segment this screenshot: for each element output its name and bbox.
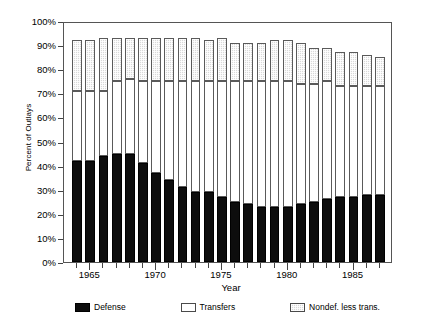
bar-segment-transfers xyxy=(191,81,201,192)
x-tick-mark-minor xyxy=(300,263,301,268)
y-tick-label: 30% xyxy=(18,186,56,196)
x-tick-mark-minor xyxy=(339,263,340,268)
bar xyxy=(335,21,345,262)
bar-segment-nondef-less-trans xyxy=(112,38,122,81)
x-tick-mark-minor xyxy=(168,263,169,268)
x-tick-label: 1965 xyxy=(69,270,109,280)
bar-segment-defense xyxy=(309,202,319,262)
bar-segment-nondef-less-trans xyxy=(164,38,174,81)
bar-segment-nondef-less-trans xyxy=(257,43,267,82)
y-tick-label: 100% xyxy=(18,17,56,27)
legend-swatch-defense-icon xyxy=(75,303,90,312)
x-tick-mark-minor xyxy=(116,263,117,268)
y-tick-mark xyxy=(58,263,63,264)
bar xyxy=(230,21,240,262)
bar-segment-transfers xyxy=(99,91,109,156)
bar-segment-nondef-less-trans xyxy=(362,55,372,86)
bar-segment-nondef-less-trans xyxy=(191,38,201,81)
x-tick-label: 1970 xyxy=(135,270,175,280)
bar xyxy=(85,21,95,262)
x-tick-label: 1975 xyxy=(201,270,241,280)
bar xyxy=(178,21,188,262)
bar-segment-transfers xyxy=(138,81,148,163)
bar-segment-nondef-less-trans xyxy=(72,40,82,91)
bar-segment-defense xyxy=(362,195,372,262)
x-tick-mark-minor xyxy=(234,263,235,268)
bar xyxy=(191,21,201,262)
x-tick-mark-minor xyxy=(102,263,103,268)
bar-segment-transfers xyxy=(217,81,227,197)
bar-segment-defense xyxy=(335,197,345,262)
bar-segment-transfers xyxy=(164,81,174,180)
bar-segment-transfers xyxy=(72,91,82,161)
x-tick-mark-minor xyxy=(247,263,248,268)
bar-segment-nondef-less-trans xyxy=(217,38,227,81)
legend-label: Transfers xyxy=(200,302,236,312)
bar-segment-nondef-less-trans xyxy=(283,40,293,81)
x-tick-mark-minor xyxy=(181,263,182,268)
bar-segment-transfers xyxy=(230,81,240,202)
y-tick-label: 70% xyxy=(18,89,56,99)
y-tick-label: 60% xyxy=(18,113,56,123)
bar-segment-nondef-less-trans xyxy=(270,40,280,81)
bar xyxy=(112,21,122,262)
bar xyxy=(125,21,135,262)
legend-swatch-transfers-icon xyxy=(181,303,196,312)
legend-label: Defense xyxy=(94,302,126,312)
y-tick-label: 80% xyxy=(18,65,56,75)
bar xyxy=(270,21,280,262)
bar xyxy=(243,21,253,262)
bar-segment-nondef-less-trans xyxy=(349,52,359,86)
x-tick-mark-minor xyxy=(313,263,314,268)
bar-segment-nondef-less-trans xyxy=(85,40,95,91)
bar-segment-defense xyxy=(230,202,240,262)
legend-swatch-nondef-icon xyxy=(290,303,305,312)
bar xyxy=(283,21,293,262)
bar-segment-transfers xyxy=(375,86,385,194)
bar xyxy=(72,21,82,262)
bar-segment-transfers xyxy=(335,86,345,197)
bar-segment-defense xyxy=(243,204,253,262)
bar xyxy=(217,21,227,262)
legend-label: Nondef. less trans. xyxy=(309,302,380,312)
bar xyxy=(296,21,306,262)
y-tick-label: 50% xyxy=(18,138,56,148)
bar xyxy=(349,21,359,262)
bar-segment-nondef-less-trans xyxy=(230,43,240,82)
chart-legend: DefenseTransfersNondef. less trans. xyxy=(63,299,392,315)
bar-segment-transfers xyxy=(151,81,161,173)
bar-segment-nondef-less-trans xyxy=(178,38,188,81)
bar xyxy=(375,21,385,262)
bar-segment-nondef-less-trans xyxy=(99,38,109,91)
bar-segment-defense xyxy=(217,197,227,262)
y-tick-label: 90% xyxy=(18,41,56,51)
x-tick-mark-minor xyxy=(366,263,367,268)
bar-segment-defense xyxy=(191,192,201,262)
bar-segment-defense xyxy=(178,187,188,262)
stacked-bar-chart: Percent of Outlays 0%10%20%30%40%50%60%7… xyxy=(0,0,427,329)
bar-segment-transfers xyxy=(125,79,135,154)
x-tick-mark-minor xyxy=(274,263,275,268)
bar-segment-transfers xyxy=(349,86,359,197)
bar-segment-defense xyxy=(283,207,293,262)
bar-segment-transfers xyxy=(85,91,95,161)
bar-segment-defense xyxy=(322,199,332,262)
bar xyxy=(309,21,319,262)
bar-segment-transfers xyxy=(362,86,372,194)
bar-segment-transfers xyxy=(296,84,306,205)
bar-segment-defense xyxy=(112,154,122,262)
bar-segment-defense xyxy=(204,192,214,262)
bar xyxy=(164,21,174,262)
bar-segment-defense xyxy=(257,207,267,262)
bar-segment-transfers xyxy=(283,81,293,206)
bar-segment-transfers xyxy=(270,81,280,206)
bar-segment-nondef-less-trans xyxy=(125,38,135,79)
bar-segment-defense xyxy=(151,173,161,262)
bar xyxy=(204,21,214,262)
x-tick-mark-minor xyxy=(379,263,380,268)
bar-segment-nondef-less-trans xyxy=(296,43,306,84)
bar-segment-nondef-less-trans xyxy=(138,38,148,81)
x-tick-label: 1985 xyxy=(333,270,373,280)
legend-entry: Defense xyxy=(75,302,126,312)
x-tick-mark-minor xyxy=(129,263,130,268)
